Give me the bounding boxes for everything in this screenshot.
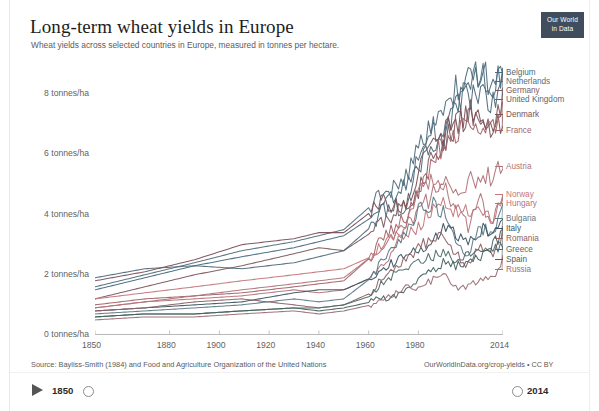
- timeline-handle-end[interactable]: [512, 386, 523, 397]
- series-line: [95, 229, 503, 317]
- legend-item-italy[interactable]: Italy: [506, 224, 521, 234]
- legend-swatch-icon: [495, 194, 503, 195]
- legend-item-austria[interactable]: Austria: [506, 162, 531, 172]
- owid-logo-line2: in Data: [541, 25, 584, 34]
- x-axis-tick-label: 1920: [256, 340, 275, 350]
- line-chart-svg: [95, 58, 503, 335]
- legend-item-label: Austria: [506, 162, 531, 172]
- legend-item-russia[interactable]: Russia: [506, 265, 531, 275]
- legend-item-spain[interactable]: Spain: [506, 255, 527, 265]
- page-edge-left: [9, 0, 10, 411]
- credit-note[interactable]: OurWorldInData.org/crop-yields • CC BY: [424, 360, 553, 369]
- legend-swatch-icon: [495, 203, 503, 204]
- legend-swatch-icon: [495, 72, 503, 73]
- play-icon[interactable]: [32, 384, 43, 396]
- legend-swatch-icon: [495, 228, 503, 229]
- page-edge-right: [589, 0, 590, 411]
- y-axis-tick-label: 4 tonnes/ha: [23, 209, 89, 219]
- series-line: [95, 62, 503, 290]
- legend-item-label: United Kingdom: [506, 95, 564, 105]
- legend-item-hungary[interactable]: Hungary: [506, 199, 537, 209]
- series-line: [95, 88, 503, 299]
- legend-swatch-icon: [495, 269, 503, 270]
- legend-item-label: Greece: [506, 245, 533, 255]
- chart-card: Long-term wheat yields in Europe Wheat y…: [0, 0, 599, 411]
- legend-item-bulgaria[interactable]: Bulgaria: [506, 214, 536, 224]
- owid-logo[interactable]: Our World in Data: [541, 12, 584, 38]
- legend-item-label: Spain: [506, 255, 527, 265]
- legend-swatch-icon: [495, 114, 503, 115]
- source-note: Source: Bayliss-Smith (1984) and Food an…: [31, 360, 326, 369]
- timeline-start-year: 1850: [52, 385, 73, 396]
- legend-swatch-icon: [495, 99, 503, 100]
- legend-item-label: Bulgaria: [506, 214, 536, 224]
- x-axis-tick-label: 1880: [157, 340, 176, 350]
- legend-item-denmark[interactable]: Denmark: [506, 110, 539, 120]
- legend-item-label: Denmark: [506, 110, 539, 120]
- legend-swatch-icon: [495, 166, 503, 167]
- x-axis-tick-label: 1980: [405, 340, 424, 350]
- y-axis-tick-label: 8 tonnes/ha: [23, 88, 89, 98]
- chart-title: Long-term wheat yields in Europe: [30, 16, 294, 38]
- timeline-handle-start[interactable]: [83, 386, 94, 397]
- x-axis-tick-label: 1850: [82, 340, 101, 350]
- footer-divider: [10, 372, 589, 373]
- chart-subtitle: Wheat yields across selected countries i…: [31, 40, 339, 51]
- legend-item-romania[interactable]: Romania: [506, 234, 539, 244]
- legend-swatch-icon: [495, 259, 503, 260]
- legend-item-label: Romania: [506, 234, 539, 244]
- legend-swatch-icon: [495, 249, 503, 250]
- x-axis-tick-label: 2014: [490, 340, 509, 350]
- y-axis-tick-label: 0 tonnes/ha: [23, 329, 89, 339]
- legend-swatch-icon: [495, 90, 503, 91]
- legend-swatch-icon: [495, 218, 503, 219]
- legend-item-label: Hungary: [506, 199, 537, 209]
- legend-item-united-kingdom[interactable]: United Kingdom: [506, 95, 564, 105]
- y-axis-tick-label: 6 tonnes/ha: [23, 148, 89, 158]
- owid-logo-line1: Our World: [541, 16, 584, 25]
- x-axis-tick-label: 1960: [356, 340, 375, 350]
- legend-item-france[interactable]: France: [506, 126, 531, 136]
- timeline-end-year: 2014: [527, 385, 548, 396]
- legend-item-label: Italy: [506, 224, 521, 234]
- x-axis-tick-label: 1900: [206, 340, 225, 350]
- legend-item-label: France: [506, 126, 531, 136]
- legend-item-greece[interactable]: Greece: [506, 245, 533, 255]
- legend-item-label: Russia: [506, 265, 531, 275]
- legend-swatch-icon: [495, 130, 503, 131]
- y-axis-tick-label: 2 tonnes/ha: [23, 269, 89, 279]
- x-axis-tick-label: 1940: [306, 340, 325, 350]
- legend-swatch-icon: [495, 81, 503, 82]
- legend-swatch-icon: [495, 238, 503, 239]
- plot-area: [95, 58, 503, 335]
